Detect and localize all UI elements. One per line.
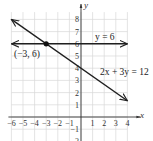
y-tick-label: 8 xyxy=(75,15,79,24)
x-tick-label: 1 xyxy=(91,119,95,128)
y-tick-label: 3 xyxy=(75,76,79,85)
x-tick-label: −3 xyxy=(42,119,51,128)
y-tick-label: 7 xyxy=(75,28,79,37)
y-tick-label: −2 xyxy=(70,137,79,141)
label-intersection-point: (−3, 6) xyxy=(14,49,40,60)
label-y-equals-6: y = 6 xyxy=(95,32,115,42)
x-tick-label: 4 xyxy=(125,119,129,128)
label-2x-plus-3y-equals-12: 2x + 3y = 12 xyxy=(100,67,149,77)
intersection-point-marker xyxy=(44,41,49,46)
x-tick-label: −4 xyxy=(30,119,39,128)
x-tick-label: −2 xyxy=(54,119,63,128)
y-tick-label: 1 xyxy=(75,101,79,110)
x-tick-label: 3 xyxy=(114,119,118,128)
x-tick-label: 2 xyxy=(102,119,106,128)
x-axis-label: x xyxy=(139,110,144,120)
y-tick-label: 2 xyxy=(75,89,79,98)
y-tick-label: 5 xyxy=(75,52,79,61)
y-axis-label: y xyxy=(83,0,88,10)
chart: −6−5−4−3−2−11234−2−112345678 y = 6 2x + … xyxy=(0,0,153,141)
x-tick-label: −6 xyxy=(7,119,16,128)
y-tick-label: −1 xyxy=(70,125,79,134)
x-tick-label: −5 xyxy=(19,119,28,128)
